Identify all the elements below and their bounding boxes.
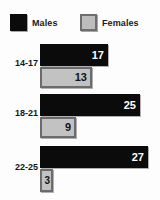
bar-males-14-17: 17 [40,44,108,66]
legend-label-females: Females [102,18,139,28]
black-square-swatch-icon [10,14,27,31]
bar-females-14-17: 13 [40,67,92,88]
legend-item-males: Males [10,14,58,31]
bar-males-22-25: 27 [40,146,148,168]
bar-group-18-21: 18-21 25 9 [0,90,160,140]
chart-legend: Males Females [0,12,160,38]
bar-females-22-25: 3 [40,169,53,192]
gray-square-swatch-icon [80,14,97,31]
bar-value-males-22-25: 27 [132,152,147,163]
bar-value-males-14-17: 17 [92,50,107,61]
bar-value-females-14-17: 13 [75,72,90,83]
bar-value-females-22-25: 3 [44,176,51,186]
legend-label-males: Males [32,18,58,28]
grouped-bar-chart: Males Females 14-17 17 13 18-21 25 9 [0,0,160,200]
category-label-18-21: 18-21 [2,108,38,118]
bar-value-males-18-21: 25 [124,100,139,111]
bar-males-18-21: 25 [40,94,140,116]
bar-group-22-25: 22-25 27 3 [0,140,160,196]
bar-value-females-18-21: 9 [65,122,74,133]
plot-area: 14-17 17 13 18-21 25 9 22-25 27 [0,40,160,200]
bar-group-14-17: 14-17 17 13 [0,40,160,90]
legend-item-females: Females [80,14,139,31]
bar-females-18-21: 9 [40,117,76,138]
category-label-14-17: 14-17 [2,58,38,68]
category-label-22-25: 22-25 [2,162,38,172]
